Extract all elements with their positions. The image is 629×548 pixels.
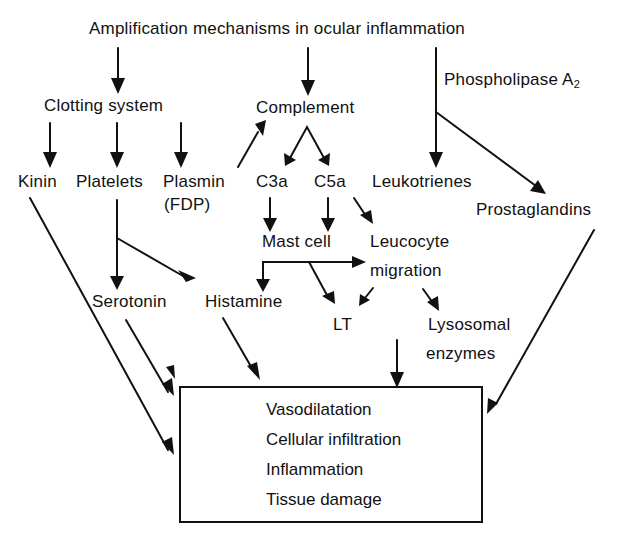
arrowhead-histamine-from-platelets (178, 270, 196, 282)
arrowhead-serotonin (110, 276, 124, 290)
node-mast-cell: Mast cell (262, 232, 331, 252)
node-c5a: C5a (314, 172, 346, 192)
arrowhead-platelets (110, 152, 124, 168)
arrowhead-leukotrienes (429, 152, 443, 168)
arrow-serotonin-to-outcomes (126, 320, 168, 392)
arrow-platelets-to-histamine (117, 238, 183, 276)
phospholipase-text: Phospholipase A (444, 70, 574, 89)
node-lysosomal-enzymes: enzymes (426, 344, 495, 364)
node-leucocyte-migration: migration (370, 261, 442, 281)
node-platelets: Platelets (76, 172, 143, 192)
arrowhead-lt-b (359, 294, 370, 306)
outcomes-box: Vasodilatation Cellular infiltration Inf… (179, 386, 483, 523)
arrowhead-prostaglandins-box (487, 398, 498, 414)
node-leucocyte: Leucocyte (370, 232, 449, 252)
arrowhead-mastcell-b (321, 218, 335, 232)
arrowhead-c5a (318, 153, 330, 166)
arrowhead-serotonin-box (162, 378, 174, 396)
phospholipase-subscript: 2 (574, 78, 580, 90)
node-complement: Complement (256, 98, 354, 118)
arrow-mastcell-to-lt (309, 262, 328, 297)
arrowhead-clotting (111, 78, 125, 94)
arrow-prostaglandins-to-outcomes (496, 230, 594, 404)
arrow-complement-split (290, 127, 324, 158)
node-phospholipase: Phospholipase A2 (444, 70, 580, 94)
arrowhead-complement (301, 80, 315, 96)
arrow-histamine-to-outcomes (223, 318, 253, 370)
node-prostaglandins: Prostaglandins (476, 200, 591, 220)
node-clotting-system: Clotting system (44, 96, 163, 116)
node-leukotrienes: Leukotrienes (372, 172, 472, 192)
node-serotonin: Serotonin (92, 292, 167, 312)
outcome-vasodilatation: Vasodilatation (266, 400, 372, 420)
arrow-kinin-to-outcomes (30, 198, 168, 450)
diagram-title: Amplification mechanisms in ocular infla… (89, 19, 465, 39)
node-lt: LT (333, 315, 352, 335)
node-lysosomal: Lysosomal (428, 315, 510, 335)
arrow-mastcell-to-histamine-and-leucocyte (263, 262, 352, 279)
arrowhead-kinin (43, 152, 57, 168)
outcome-inflammation: Inflammation (266, 460, 363, 480)
node-kinin: Kinin (18, 172, 57, 192)
arrowhead-histamine (256, 279, 270, 292)
arrowhead-leucocyte (360, 210, 373, 224)
outcome-cellular-infiltration: Cellular infiltration (266, 430, 401, 450)
arrowhead-plasmin (174, 152, 188, 168)
arrowhead-kinin-box (162, 437, 174, 455)
arrowhead-c3a (284, 153, 296, 166)
arrow-plasmin-to-complement (238, 132, 258, 167)
arrowhead-leucocyte-migration (352, 256, 366, 268)
diagram-canvas: Amplification mechanisms in ocular infla… (0, 0, 629, 548)
outcome-tissue-damage: Tissue damage (266, 490, 382, 510)
node-plasmin: Plasmin (163, 172, 225, 192)
arrowhead-lt-a (322, 291, 335, 304)
arrowhead-mastcell-a (263, 218, 277, 232)
arrowhead-kinin-box-upper (166, 365, 175, 379)
arrow-leucocyte-to-lt (365, 288, 373, 298)
node-histamine: Histamine (205, 292, 282, 312)
node-c3a: C3a (256, 172, 288, 192)
node-plasmin-fdp: (FDP) (164, 195, 210, 215)
